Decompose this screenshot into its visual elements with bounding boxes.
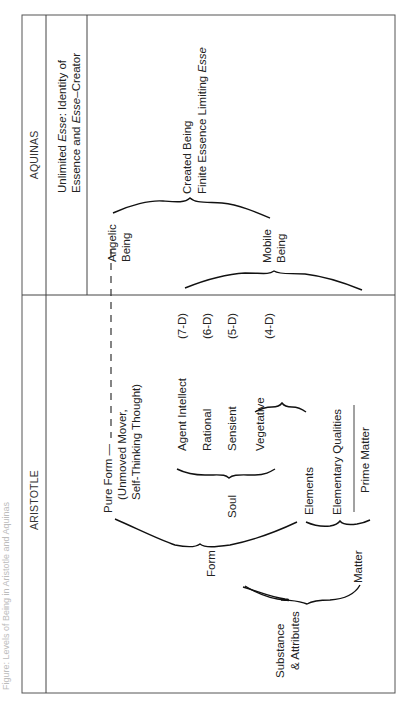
- mobile-being-label-1: Mobile: [261, 229, 273, 263]
- elementary-qualities-label: Elementary Qualities: [331, 409, 343, 515]
- self-thinking-thought-label: Self-Thinking Thought): [130, 384, 142, 500]
- unlimited-esse-label: Unlimited Esse: Identity of: [56, 59, 68, 193]
- finite-essence-label: Finite Essence Limiting Esse: [196, 47, 208, 194]
- form-brace: [115, 519, 297, 547]
- matter-label: Matter: [352, 550, 364, 583]
- mobile-being-brace: [185, 271, 362, 290]
- elements-brace: [306, 520, 370, 526]
- soul-brace: [177, 469, 275, 478]
- degree-label-6d: (6-D): [201, 313, 213, 339]
- elements-label: Elements: [303, 467, 315, 515]
- levels-of-being-diagram: Figure: Levels of Being in Aristotle and…: [0, 0, 410, 710]
- essence-creator-label: Essence and Esse–Creator: [70, 53, 82, 193]
- pure-form-label: Pure Form —: [102, 443, 114, 513]
- created-being-brace: [113, 198, 270, 218]
- sensient-label: Sensient: [226, 405, 238, 451]
- form-label: Form: [205, 550, 217, 577]
- degree-label-4d: (4-D): [263, 313, 275, 339]
- column-header-aristotle: ARISTOTLE: [28, 470, 40, 530]
- attributes-label: & Attributes: [289, 611, 301, 670]
- degree-label-5d: (5-D): [226, 313, 238, 339]
- mobile-being-label-2: Being: [275, 234, 287, 263]
- angelic-being-label-2: Being: [120, 233, 132, 262]
- agent-intellect-label: Agent Intellect: [176, 377, 188, 451]
- soul-label: Soul: [226, 495, 238, 518]
- figure-caption: Figure: Levels of Being in Aristotle and…: [1, 501, 11, 690]
- vegetative-label: Vegetative: [254, 397, 266, 451]
- unmoved-mover-label: (Unmoved Mover,: [116, 409, 128, 500]
- prime-matter-label: Prime Matter: [359, 427, 371, 493]
- degree-label-7d: (7-D): [176, 313, 188, 339]
- column-header-aquinas: AQUINAS: [28, 131, 40, 180]
- angelic-being-label-1: Angelic: [106, 224, 118, 262]
- rational-label: Rational: [201, 409, 213, 451]
- substance-label: Substance: [274, 624, 286, 678]
- created-being-label: Created Being: [181, 120, 193, 194]
- substance-attributes-brace: [245, 585, 360, 604]
